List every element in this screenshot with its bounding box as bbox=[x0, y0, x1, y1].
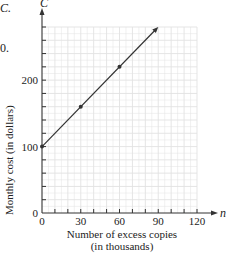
tick-labels: 03060901200100200 bbox=[22, 74, 206, 227]
line-chart: 03060901200100200 C n bbox=[0, 0, 228, 254]
svg-text:60: 60 bbox=[114, 215, 126, 227]
data-series bbox=[40, 27, 158, 149]
svg-text:90: 90 bbox=[153, 215, 165, 227]
svg-text:100: 100 bbox=[22, 141, 39, 153]
x-axis-variable: n bbox=[220, 206, 226, 220]
y-axis-label: Monthly cost (in dollars) bbox=[3, 105, 15, 215]
svg-text:120: 120 bbox=[189, 215, 206, 227]
x-axis-label-line1: Number of excess copies bbox=[42, 228, 202, 240]
svg-text:30: 30 bbox=[75, 215, 87, 227]
svg-text:0: 0 bbox=[39, 215, 45, 227]
svg-text:200: 200 bbox=[22, 74, 39, 86]
axes bbox=[40, 8, 219, 216]
x-axis-label: Number of excess copies (in thousands) bbox=[42, 228, 202, 252]
svg-text:0: 0 bbox=[33, 207, 39, 219]
grid-lines bbox=[42, 27, 197, 213]
y-axis-variable: C bbox=[40, 0, 49, 10]
x-axis-label-line2: (in thousands) bbox=[42, 240, 202, 252]
